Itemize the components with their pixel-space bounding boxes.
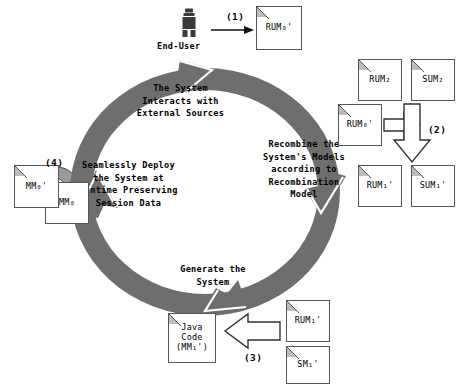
page-fold-icon	[338, 104, 349, 115]
document-rum2: RUM₂	[358, 59, 402, 101]
document-rum0-prime-mid: RUM₀'	[338, 104, 382, 146]
page-fold-icon	[256, 6, 267, 17]
page-fold-icon	[358, 165, 369, 176]
arrow-step-2-horizontal	[384, 112, 420, 138]
document-rum1-prime: RUM₁'	[358, 165, 402, 207]
step-4-number: (4)	[45, 157, 63, 168]
arrow-step-2-vertical	[394, 104, 430, 162]
step-2-number: (2)	[428, 124, 446, 135]
page-fold-icon	[411, 165, 422, 176]
step-1-number: (1)	[226, 11, 244, 22]
document-rum1-prime-bottom: RUM₁'	[286, 300, 330, 342]
document-sum2: SUM₂	[411, 59, 455, 101]
java-code-line-3: (MM₁')	[174, 343, 210, 353]
step-3-number: (3)	[244, 352, 262, 363]
page-fold-icon	[358, 59, 369, 70]
ring-label-top: The System Interacts with External Sourc…	[118, 82, 243, 120]
page-fold-icon	[286, 346, 297, 357]
ring-label-right: Recombine the System's Models according …	[250, 138, 358, 201]
page-fold-icon	[286, 300, 297, 311]
ring-label-bottom: Generate the System	[158, 263, 268, 288]
page-fold-icon	[411, 59, 422, 70]
document-sm1-prime: SM₁'	[286, 346, 330, 384]
document-mm0-prime: MM₀'	[14, 165, 59, 208]
end-user-icon	[178, 8, 200, 38]
document-sum1-prime: SUM₁'	[411, 165, 455, 207]
page-fold-icon	[168, 313, 179, 324]
arrow-step-1	[211, 26, 254, 34]
diagram-canvas: The System Interacts with External Sourc…	[0, 0, 462, 387]
page-fold-icon	[14, 165, 25, 176]
document-rum0-prime-top: RUM₀'	[256, 6, 302, 50]
document-java-code: Java Code (MM₁')	[168, 313, 216, 363]
end-user-label: End-User	[157, 41, 200, 51]
